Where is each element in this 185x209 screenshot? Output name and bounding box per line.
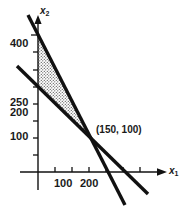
x-axis-label-text: x — [169, 165, 175, 176]
y-axis-ticks — [31, 35, 38, 155]
y-tick-label-200: 200 — [10, 106, 28, 118]
linear-programming-figure: 400 250 200 100 100 200 x2 x1 (150, 100) — [0, 0, 185, 209]
x-tick-label-200: 200 — [80, 177, 98, 189]
x-axis-label-subscript: 1 — [175, 170, 179, 177]
y-tick-label-100: 100 — [10, 130, 28, 142]
x-tick-label-100: 100 — [54, 177, 72, 189]
x-axis-arrowhead — [157, 168, 167, 176]
y-axis-label-subscript: 2 — [46, 10, 50, 17]
intersection-point-label: (150, 100) — [96, 124, 142, 135]
x-axis-ticks — [55, 167, 140, 172]
x-axis-label: x1 — [169, 165, 178, 176]
y-axis-arrowhead — [34, 15, 41, 24]
y-axis-label-text: x — [40, 5, 46, 16]
y-axis-label: x2 — [40, 5, 49, 16]
constraint-line-steep — [28, 15, 125, 205]
y-tick-label-400: 400 — [10, 37, 28, 49]
